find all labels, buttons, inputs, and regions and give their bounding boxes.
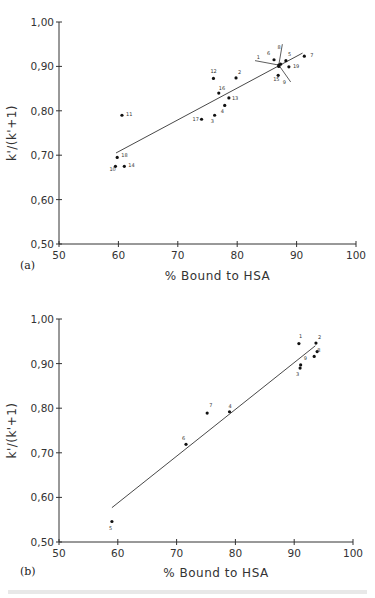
chart-panel-b: 50607080901000,500,600,700,800,901,00% B… [5, 313, 363, 580]
point-label: 9 [283, 79, 286, 85]
point-label: 15 [273, 76, 279, 82]
x-tick-label: 50 [52, 547, 65, 559]
point-label: 4 [221, 108, 224, 114]
y-tick-label: 0,70 [31, 447, 54, 459]
point-label: 5 [109, 525, 112, 531]
data-point [297, 342, 300, 345]
x-tick-label: 60 [111, 547, 124, 559]
data-point [213, 114, 216, 117]
panel-label: (a) [20, 259, 35, 272]
point-label: 12 [210, 68, 216, 74]
data-point [184, 443, 187, 446]
point-label: 14 [128, 162, 134, 168]
data-point [303, 55, 306, 58]
data-point [284, 59, 287, 62]
point-label: 2 [238, 69, 241, 75]
y-axis-label: k'/(k'+1) [5, 402, 19, 458]
y-tick-label: 0,80 [31, 105, 54, 117]
point-label: 1 [257, 54, 260, 60]
point-label: 5 [288, 51, 291, 57]
x-tick-label: 50 [52, 249, 65, 261]
point-label: 18 [121, 152, 127, 158]
x-axis-label: % Bound to HSA [165, 269, 271, 283]
y-tick-label: 0,70 [31, 149, 54, 161]
data-point [227, 96, 230, 99]
y-tick-label: 0,90 [31, 60, 54, 72]
y-tick-label: 0,60 [31, 491, 54, 503]
data-point [212, 77, 215, 80]
x-tick-label: 60 [112, 249, 125, 261]
x-tick-label: 90 [290, 249, 303, 261]
y-tick-label: 0,60 [31, 194, 54, 206]
data-point [217, 91, 220, 94]
data-point [313, 355, 316, 358]
x-axis-label: % Bound to HSA [163, 566, 269, 580]
data-point [228, 410, 231, 413]
leader-line [255, 61, 279, 65]
point-label: 17 [193, 116, 199, 122]
x-tick-label: 90 [288, 547, 301, 559]
point-label: 10 [109, 166, 115, 172]
point-label: 7 [310, 52, 313, 58]
data-point [110, 520, 113, 523]
panel-label: (b) [20, 565, 36, 578]
data-point [206, 412, 209, 415]
regression-line [116, 53, 303, 153]
data-point [234, 76, 237, 79]
point-label: 9 [304, 355, 307, 361]
point-label: 3 [211, 118, 214, 124]
y-tick-label: 0,50 [31, 238, 54, 250]
x-tick-label: 80 [229, 547, 242, 559]
point-label: 1 [299, 333, 302, 339]
y-tick-label: 1,00 [31, 16, 54, 28]
y-axis-label: k'/(k'+1) [5, 105, 19, 161]
x-tick-label: 70 [171, 249, 184, 261]
x-tick-label: 100 [343, 547, 363, 559]
point-label: 6 [182, 435, 185, 441]
x-tick-label: 100 [346, 249, 366, 261]
data-point [200, 118, 203, 121]
point-label: 19 [293, 63, 299, 69]
data-point [272, 58, 275, 61]
data-point [223, 104, 226, 107]
data-point [123, 165, 126, 168]
point-label: 13 [232, 95, 238, 101]
point-label: 6 [267, 50, 270, 56]
point-label: 16 [219, 85, 225, 91]
point-label: 11 [126, 111, 132, 117]
point-label: 7 [209, 402, 212, 408]
data-point [120, 114, 123, 117]
point-label: 3 [296, 371, 299, 377]
data-point [116, 156, 119, 159]
caption-faint [8, 590, 367, 594]
y-tick-label: 0,90 [31, 358, 54, 370]
data-point [287, 65, 290, 68]
data-point [277, 65, 280, 68]
figure: 50607080901000,500,600,700,800,901,00% B… [0, 0, 375, 598]
chart-panel-a: 50607080901000,500,600,700,800,901,00% B… [5, 16, 366, 283]
point-label: 8 [317, 347, 320, 353]
data-point [298, 366, 301, 369]
y-tick-label: 0,80 [31, 402, 54, 414]
x-tick-label: 80 [231, 249, 244, 261]
point-label: 2 [318, 334, 321, 340]
y-tick-label: 1,00 [31, 313, 54, 325]
regression-line [112, 346, 315, 508]
data-point [314, 341, 317, 344]
data-point [299, 363, 302, 366]
point-label: 8 [278, 44, 281, 50]
y-tick-label: 0,50 [31, 536, 54, 548]
x-tick-label: 70 [170, 547, 183, 559]
point-label: 4 [229, 403, 232, 409]
